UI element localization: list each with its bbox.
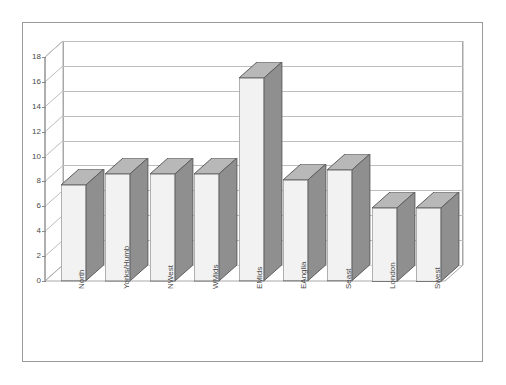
x-tick-label: Seast: [344, 269, 353, 289]
chart-frame: 024681012141618 NorthYorks/HumbNWestWMid…: [22, 22, 483, 362]
x-tick-label: NWest: [166, 265, 175, 289]
chart-screenshot: 024681012141618 NorthYorks/HumbNWestWMid…: [0, 0, 506, 385]
bar-north: [61, 185, 86, 281]
bar-3d-faces: [61, 169, 106, 283]
bar-series: [23, 23, 484, 363]
x-tick-label: EMids: [255, 267, 264, 289]
plot-area: 024681012141618 NorthYorks/HumbNWestWMid…: [23, 23, 484, 363]
bar-emids: [239, 78, 264, 281]
x-tick-label: EAnglia: [299, 261, 308, 289]
x-tick-label: North: [77, 269, 86, 289]
bar-3d-faces: [239, 62, 284, 283]
bar-3d-faces: [327, 154, 372, 283]
x-tick-label: WMids: [211, 265, 220, 289]
x-tick-label: Swest: [433, 267, 442, 289]
x-tick-label: Yorks/Humb: [122, 246, 131, 289]
x-tick-label: London: [388, 262, 397, 289]
bar-seast: [327, 170, 352, 281]
